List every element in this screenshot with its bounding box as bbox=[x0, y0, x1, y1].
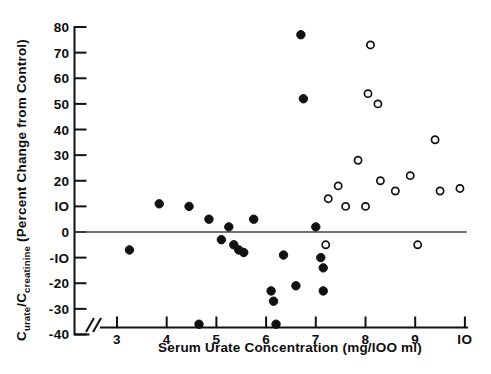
data-point-filled bbox=[279, 251, 287, 259]
y-tick-label: 0 bbox=[62, 225, 70, 240]
data-point-filled bbox=[240, 248, 248, 256]
data-point-open bbox=[325, 195, 332, 202]
data-point-open bbox=[436, 187, 443, 194]
y-axis-title: Curate/Ccreatinine (Percent Change from … bbox=[14, 39, 32, 341]
data-point-filled bbox=[155, 200, 163, 208]
data-point-open bbox=[374, 100, 381, 107]
data-point-filled bbox=[319, 264, 327, 272]
data-point-filled bbox=[297, 31, 305, 39]
data-point-filled bbox=[299, 95, 307, 103]
x-tick-label: IO bbox=[457, 332, 472, 347]
y-tick-label: 50 bbox=[54, 97, 70, 112]
data-point-open bbox=[364, 90, 371, 97]
data-point-open bbox=[362, 203, 369, 210]
data-point-filled bbox=[205, 215, 213, 223]
data-point-filled bbox=[317, 253, 325, 261]
y-tick-label: -20 bbox=[49, 276, 70, 291]
y-tick-label: -40 bbox=[49, 327, 70, 342]
data-point-open bbox=[342, 203, 349, 210]
data-point-filled bbox=[185, 202, 193, 210]
data-point-open bbox=[392, 187, 399, 194]
axis-tick-labels: -40-30-20-IO0IO203040506070803456789IO bbox=[49, 20, 473, 346]
chart-page: -40-30-20-IO0IO203040506070803456789IO S… bbox=[0, 0, 491, 374]
data-point-filled bbox=[125, 246, 133, 254]
data-points bbox=[125, 31, 463, 329]
y-tick-label: -IO bbox=[50, 251, 70, 266]
svg-text:Curate/Ccreatinine (Percent C: Curate/Ccreatinine (Percent Change from … bbox=[14, 39, 32, 341]
y-tick-label: 30 bbox=[54, 148, 70, 163]
data-point-filled bbox=[217, 235, 225, 243]
data-point-filled bbox=[319, 287, 327, 295]
series-filled bbox=[125, 31, 327, 329]
data-point-filled bbox=[195, 320, 203, 328]
scatter-plot: -40-30-20-IO0IO203040506070803456789IO S… bbox=[0, 0, 491, 374]
data-point-open bbox=[377, 177, 384, 184]
y-tick-label: 70 bbox=[54, 46, 70, 61]
data-point-open bbox=[407, 172, 414, 179]
y-tick-label: -30 bbox=[49, 302, 70, 317]
data-point-filled bbox=[269, 297, 277, 305]
data-point-filled bbox=[267, 287, 275, 295]
data-point-open bbox=[431, 136, 438, 143]
data-point-filled bbox=[249, 215, 257, 223]
data-point-open bbox=[322, 241, 329, 248]
y-tick-label: 80 bbox=[54, 20, 70, 35]
data-point-filled bbox=[272, 320, 280, 328]
data-point-open bbox=[456, 185, 463, 192]
y-tick-label: 20 bbox=[54, 174, 70, 189]
axis-break-mark bbox=[86, 318, 101, 332]
data-point-open bbox=[335, 182, 342, 189]
x-axis-title: Serum Urate Concentration (mg/IOO ml) bbox=[158, 340, 422, 355]
data-point-open bbox=[354, 157, 361, 164]
y-tick-label: 60 bbox=[54, 71, 70, 86]
y-tick-label: IO bbox=[54, 199, 69, 214]
data-point-filled bbox=[225, 223, 233, 231]
data-point-open bbox=[414, 241, 421, 248]
data-point-filled bbox=[312, 223, 320, 231]
y-tick-label: 40 bbox=[54, 123, 70, 138]
data-point-filled bbox=[292, 282, 300, 290]
data-point-open bbox=[367, 41, 374, 48]
x-tick-label: 3 bbox=[113, 332, 121, 347]
series-open bbox=[322, 41, 463, 248]
